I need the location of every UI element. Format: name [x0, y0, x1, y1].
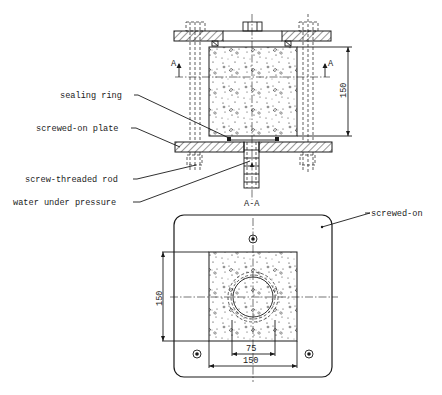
sealing-ring-right [275, 137, 279, 141]
top-nut [243, 22, 262, 31]
label-screw-threaded-rod: screw-threaded rod [25, 175, 118, 185]
plan-view-section-a-a: A-A screwed-on [155, 199, 423, 382]
threaded-inlet-rod [244, 142, 259, 188]
top-plate-right [282, 31, 331, 41]
bottom-plate-left [175, 142, 244, 152]
section-marker-right: A [323, 59, 335, 77]
dimension-plan-height: 150 [155, 252, 209, 341]
elevation-view: A A [13, 14, 352, 208]
label-water-under-pressure: water under pressure [13, 198, 116, 208]
dimension-elevation-height: 150 [297, 47, 352, 136]
svg-text:150: 150 [243, 356, 258, 366]
concrete-specimen [209, 47, 297, 136]
technical-drawing: A A [0, 0, 442, 395]
svg-text:150: 150 [339, 83, 349, 98]
svg-text:150: 150 [155, 291, 165, 306]
svg-text:75: 75 [246, 344, 256, 354]
svg-text:A: A [328, 59, 334, 69]
bolt-bottom-left [193, 350, 201, 358]
label-screwed-on: screwed-on [371, 209, 423, 219]
top-plate-left [174, 31, 223, 41]
bottom-plate-right [259, 142, 332, 152]
svg-text:A: A [171, 59, 177, 69]
section-marker-left: A [171, 59, 182, 77]
bolt-bottom-right [305, 350, 313, 358]
label-screwed-on-plate: screwed-on plate [36, 124, 119, 134]
label-sealing-ring: sealing ring [60, 91, 122, 101]
section-title: A-A [244, 199, 260, 209]
